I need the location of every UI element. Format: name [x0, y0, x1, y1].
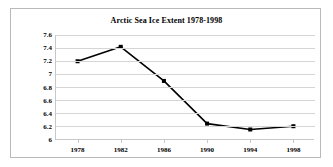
y-gridline: [56, 113, 315, 114]
chart-frame: Arctic Sea Ice Extent 1978-1998 1978: 7.…: [10, 8, 321, 158]
x-axis-tick-label: 1986: [157, 146, 171, 154]
x-axis-tick-label: 1994: [243, 146, 257, 154]
y-gridline: [56, 74, 315, 75]
y-gridline: [56, 61, 315, 62]
y-axis-tick-label: 7: [49, 70, 53, 78]
y-axis-tick-label: 6.4: [43, 110, 52, 118]
y-gridline: [56, 126, 315, 127]
data-point-marker: 1986: 6.9: [162, 79, 166, 83]
y-axis-tick-label: 6.6: [43, 97, 52, 105]
y-gridline: [56, 48, 315, 49]
x-axis-tick-mark: [78, 140, 79, 143]
data-point-marker: 1994: 6.16: [248, 128, 252, 132]
x-axis-tick-label: 1978: [71, 146, 85, 154]
x-axis-tick-mark: [121, 140, 122, 143]
y-axis-tick-label: 7.4: [43, 44, 52, 52]
y-axis-tick-label: 6.8: [43, 84, 52, 92]
y-axis-tick-label: 6.2: [43, 123, 52, 131]
y-axis-tick-label: 6: [49, 136, 53, 144]
y-axis-tick-label: 7.6: [43, 31, 52, 39]
chart-title: Arctic Sea Ice Extent 1978-1998: [11, 16, 322, 25]
x-axis-tick-label: 1990: [200, 146, 214, 154]
y-gridline: [56, 100, 315, 101]
chart-figure: Arctic Sea Ice Extent 1978-1998 1978: 7.…: [0, 0, 333, 167]
series-polyline: [78, 47, 294, 130]
y-gridline: [56, 87, 315, 88]
x-axis-tick-label: 1998: [286, 146, 300, 154]
plot-area: 1978: 7.21982: 7.421986: 6.91990: 6.2519…: [55, 35, 314, 140]
x-axis-tick-mark: [250, 140, 251, 143]
y-axis-tick-label: 7.2: [43, 57, 52, 65]
data-point-marker: 1990: 6.25: [205, 122, 209, 126]
y-gridline: [56, 35, 315, 36]
x-axis-tick-mark: [164, 140, 165, 143]
x-axis-tick-label: 1982: [114, 146, 128, 154]
x-axis-tick-mark: [293, 140, 294, 143]
x-axis-tick-mark: [207, 140, 208, 143]
